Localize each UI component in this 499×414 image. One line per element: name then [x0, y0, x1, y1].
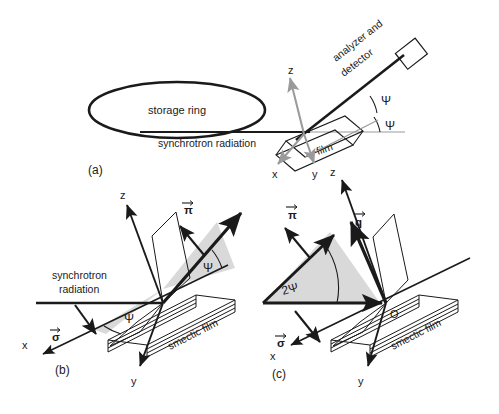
synchrotron-label-b-line1: synchrotron [52, 269, 107, 281]
angle-psi-in-label-b: Ψ [124, 312, 134, 326]
axis-y-label-a: y [312, 168, 318, 180]
axis-x-label-c: x [270, 350, 276, 362]
angle-psi-out-label-b: Ψ [203, 261, 213, 275]
vector-q-label-c: q [355, 216, 362, 228]
vector-pi-c [285, 228, 310, 258]
angle-psi-upper-label-a: Ψ [381, 94, 391, 108]
angle-wedge-2psi-c [263, 232, 380, 303]
origin-label-c: O [390, 308, 399, 320]
axis-z-a [290, 78, 304, 134]
synchrotron-label-b-line2: radiation [59, 283, 99, 295]
axis-y-b [140, 303, 163, 366]
scattering-plane-c-upper [373, 214, 408, 303]
detector-box [395, 38, 427, 69]
axis-x-label-a: x [272, 168, 278, 180]
axis-y-label-c: y [358, 375, 364, 387]
axis-z-label-b: z [120, 189, 126, 201]
vector-pi-b [180, 226, 204, 255]
axis-z-label-a: z [288, 64, 294, 76]
angle-arc-psi-lower-a [374, 117, 380, 132]
storage-ring-label: storage ring [148, 104, 206, 116]
angle-psi-lower-label-a: Ψ [385, 119, 395, 133]
synchrotron-radiation-label-a: synchrotron radiation [158, 137, 256, 149]
vector-sigma-b [75, 305, 96, 334]
vector-pi-label-c: π [288, 209, 297, 221]
panel-b: x synchrotron radiation σ z y [22, 189, 241, 387]
vector-sigma-label-b: σ [52, 331, 60, 343]
diagram-svg: storage ring synchrotron radiation film … [0, 0, 499, 414]
axis-z-label-c: z [330, 166, 336, 178]
figure-canvas: storage ring synchrotron radiation film … [0, 0, 499, 414]
film-plane-lower [276, 130, 353, 171]
angle-arc-psi-upper-a [370, 96, 377, 113]
panel-a: storage ring synchrotron radiation film … [88, 17, 427, 180]
axis-x-label-b: x [22, 339, 28, 351]
vector-pi-label-b: π [184, 204, 193, 216]
axis-y-label-b: y [131, 375, 137, 387]
vector-sigma-label-c: σ [277, 337, 285, 349]
panel-label-c: (c) [272, 367, 286, 381]
panel-c: 2Ψ x z y q π σ [263, 166, 470, 387]
panel-label-a: (a) [88, 163, 103, 177]
axis-y-a [304, 134, 314, 163]
panel-label-b: (b) [55, 363, 70, 377]
axis-z-b [127, 205, 163, 303]
